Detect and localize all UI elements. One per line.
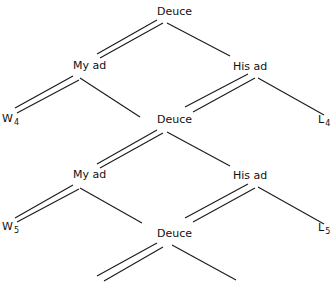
node-label: L [318,221,324,234]
node-subscript: 5 [14,226,19,235]
node-subscript: 4 [325,119,330,128]
edge-deuce3-left-double [97,243,163,281]
node-label: L [318,113,324,126]
node-my-ad-2: My ad [73,169,106,181]
edge-hisad2-l5 [258,187,324,224]
edge-deuce1-hisad1 [167,23,230,56]
node-label: His ad [233,60,267,73]
node-deuce-1: Deuce [157,6,192,18]
edge-hisad1-l4 [258,78,324,115]
node-label: My ad [73,168,106,181]
edge-hisad2-deuce3-double [185,184,255,222]
node-label: Deuce [157,5,192,18]
node-his-ad-2: His ad [233,170,267,182]
node-deuce-2: Deuce [157,114,192,126]
edge-hisad1-deuce2-double [185,74,255,112]
edge-myad2-deuce3 [80,188,142,223]
edge-myad1-w4-double [15,76,79,113]
edge-myad1-deuce2 [80,78,140,117]
node-subscript: 4 [14,118,19,127]
node-label: W [2,220,13,233]
edge-deuce2-myad2-double [97,130,163,168]
node-label: Deuce [157,113,192,126]
node-label: W [2,112,13,125]
edge-deuce3-right [172,245,236,280]
node-w4: W4 [2,113,19,126]
node-label: Deuce [157,227,192,240]
node-l5: L5 [318,222,330,235]
node-subscript: 5 [325,227,330,236]
node-label: My ad [73,59,106,72]
node-label: His ad [233,169,267,182]
node-l4: L4 [318,114,330,127]
edge-deuce2-hisad2 [167,132,230,166]
node-my-ad-1: My ad [73,60,106,72]
node-w5: W5 [2,221,19,234]
edge-deuce1-myad1-double [97,20,163,58]
node-deuce-3: Deuce [157,228,192,240]
tree-edges [0,0,335,284]
edge-myad2-w5-double [15,185,79,222]
node-his-ad-1: His ad [233,61,267,73]
